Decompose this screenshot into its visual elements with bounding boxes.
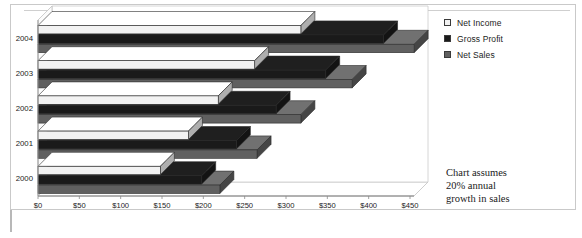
x-tick-label: $400 — [360, 201, 377, 210]
x-tick-label: $150 — [154, 201, 171, 210]
x-tick-label: $100 — [112, 201, 129, 210]
square-gray-icon — [444, 51, 451, 58]
y-category-label: 2000 — [16, 174, 34, 183]
y-category-label: 2001 — [16, 139, 33, 148]
annotation-line-2: 20% annual — [446, 179, 574, 192]
x-tick-label: $300 — [278, 201, 295, 210]
x-tick-label: $0 — [34, 201, 42, 210]
annotation-line-3: growth in sales — [446, 192, 574, 205]
y-category-label: 2003 — [16, 69, 33, 78]
legend-item-gross-profit: Gross Profit — [444, 32, 564, 45]
y-category-label: 2004 — [16, 34, 34, 43]
square-filled-icon — [444, 35, 451, 42]
chart-figure: $0$50$100$150$200$250$300$350$400$450200… — [0, 0, 582, 238]
legend-label-net-sales: Net Sales — [457, 50, 495, 60]
square-outline-icon — [444, 19, 451, 26]
y-category-label: 2002 — [16, 104, 33, 113]
legend-label-net-income: Net Income — [457, 18, 501, 28]
x-tick-label: $200 — [195, 201, 212, 210]
legend-item-net-sales: Net Sales — [444, 48, 564, 61]
annotation-line-1: Chart assumes — [446, 166, 574, 179]
chart-annotation: Chart assumes 20% annual growth in sales — [446, 166, 574, 205]
legend-item-net-income: Net Income — [444, 16, 564, 29]
x-tick-label: $250 — [236, 201, 253, 210]
x-tick-label: $50 — [73, 201, 86, 210]
chart-legend: Net Income Gross Profit Net Sales — [444, 16, 564, 64]
legend-label-gross-profit: Gross Profit — [457, 34, 503, 44]
x-tick-label: $350 — [319, 201, 336, 210]
x-tick-label: $450 — [402, 201, 419, 210]
